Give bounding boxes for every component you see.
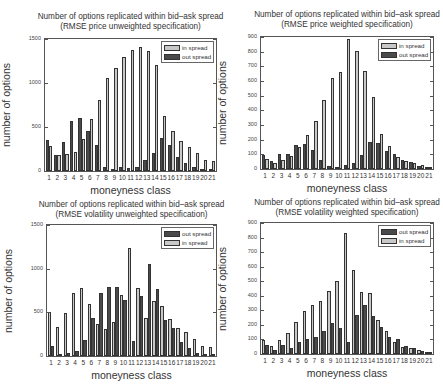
x-axis-label: moneyness class [260, 182, 434, 194]
y-tick-label: 500 [235, 277, 257, 283]
legend-entry: in spread [164, 238, 211, 247]
chart-title: Number of options replicated within bid–… [240, 198, 443, 218]
y-axis-label: number of options [0, 50, 12, 160]
x-tick-label: 21 [207, 174, 217, 181]
bar-in-spread [396, 157, 399, 169]
bar-in-spread [122, 57, 125, 171]
y-tick-mark [430, 339, 433, 340]
y-tick-mark [261, 238, 264, 239]
y-tick-mark [430, 154, 433, 155]
y-tick-mark [430, 96, 433, 97]
y-tick-mark [213, 171, 216, 172]
y-tick-mark [45, 39, 48, 40]
bar-out-spread [355, 315, 358, 354]
bar-in-spread [363, 71, 366, 169]
y-tick-mark [261, 325, 264, 326]
bar-out-spread [83, 340, 86, 356]
bar-in-spread [57, 155, 60, 171]
bar-out-spread [265, 345, 268, 354]
chart-title-line: Number of options replicated within bid–… [24, 12, 237, 22]
bar-in-spread [74, 152, 77, 171]
y-tick-mark [430, 223, 433, 224]
bar-out-spread [380, 327, 383, 354]
legend-entry: out spread [164, 229, 211, 238]
bar-out-spread [107, 287, 110, 356]
bar-in-spread [298, 147, 301, 169]
y-tick-label: 100 [235, 335, 257, 341]
legend-entry: out spread [381, 50, 428, 59]
legend-label: in spread [399, 237, 424, 244]
y-tick-label: 900 [235, 219, 257, 225]
legend-entry: in spread [164, 43, 211, 52]
bar-out-spread [51, 346, 54, 356]
y-tick-label: 500 [21, 308, 43, 314]
legend-swatch-out-spread [164, 231, 180, 237]
bar-out-spread [331, 323, 334, 354]
bar-out-spread [180, 342, 183, 356]
bar-in-spread [347, 39, 350, 169]
chart-legend: out spreadin spread [378, 225, 431, 247]
bar-in-spread [265, 159, 268, 169]
bar-out-spread [404, 346, 407, 354]
y-tick-mark [430, 296, 433, 297]
legend-label: out spread [399, 51, 428, 58]
legend-entry: out spread [164, 52, 211, 61]
y-tick-mark [213, 39, 216, 40]
y-tick-mark [45, 171, 48, 172]
bar-out-spread [204, 354, 207, 356]
chart-subtitle-line: (RMSE volatility weighted specification) [240, 208, 443, 218]
bar-in-spread [314, 121, 317, 169]
bar-out-spread [156, 289, 159, 356]
bar-in-spread [273, 163, 276, 169]
bar-out-spread [148, 264, 151, 356]
bar-out-spread [273, 350, 276, 354]
bar-in-spread [404, 161, 407, 169]
chart-subtitle-line: (RMSE price weighted specification) [240, 20, 443, 30]
y-tick-mark [261, 110, 264, 111]
x-axis-label: moneyness class [44, 184, 217, 196]
y-tick-label: 500 [235, 92, 257, 98]
bar-in-spread [65, 154, 68, 171]
bar-out-spread [140, 296, 143, 356]
bar-in-spread [306, 135, 309, 169]
legend-entry: in spread [381, 41, 428, 50]
chart-legend: out spreadin spread [161, 227, 214, 249]
bar-in-spread [82, 139, 85, 171]
y-tick-label: 100 [235, 150, 257, 156]
bar-in-spread [290, 156, 293, 169]
x-axis-label: moneyness class [46, 369, 217, 381]
y-tick-mark [261, 52, 264, 53]
bar-in-spread [98, 100, 101, 171]
y-tick-mark [261, 223, 264, 224]
y-tick-mark [261, 296, 264, 297]
y-tick-mark [47, 312, 50, 313]
bar-in-spread [212, 161, 215, 171]
legend-label: in spread [182, 44, 207, 51]
y-tick-label: 1000 [21, 265, 43, 271]
bar-out-spread [132, 341, 135, 356]
bar-in-spread [413, 163, 416, 169]
legend-label: in spread [182, 239, 207, 246]
y-tick-mark [261, 81, 264, 82]
bar-out-spread [196, 353, 199, 356]
bar-in-spread [72, 293, 75, 356]
bar-in-spread [128, 248, 131, 356]
y-tick-label: 0 [235, 350, 257, 356]
chart-title-line: Number of options replicated within bid–… [240, 10, 443, 20]
y-tick-mark [261, 140, 264, 141]
bar-in-spread [322, 100, 325, 169]
y-tick-mark [430, 110, 433, 111]
legend-label: out spread [182, 53, 211, 60]
y-tick-label: 800 [235, 48, 257, 54]
y-tick-mark [45, 127, 48, 128]
bar-out-spread [347, 342, 350, 354]
y-tick-mark [47, 356, 50, 357]
y-tick-mark [47, 269, 50, 270]
bar-out-spread [339, 328, 342, 354]
y-tick-mark [430, 81, 433, 82]
y-axis-label: number of options [216, 48, 228, 158]
y-tick-mark [430, 252, 433, 253]
y-tick-label: 700 [235, 62, 257, 68]
x-tick-label: 21 [424, 357, 434, 364]
bar-in-spread [171, 131, 174, 171]
